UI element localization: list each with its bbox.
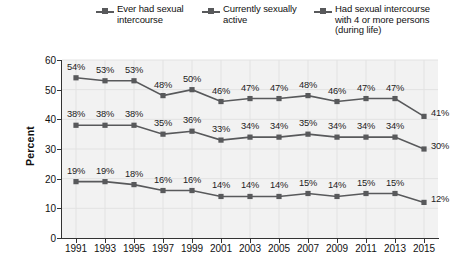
data-label-s2-2007: 15% — [299, 178, 317, 188]
legend-line-marker-icon — [96, 6, 114, 17]
y-tick-label-2: 20 — [45, 173, 56, 184]
data-label-s2-2015: 12% — [431, 194, 449, 204]
data-label-s0-1997: 48% — [154, 80, 172, 90]
y-tick-label-5: 50 — [45, 84, 56, 95]
data-label-s1-2001: 33% — [212, 124, 230, 134]
legend-label-0-line-1: intercourse — [117, 14, 163, 25]
legend-label-2-line-0: Had sexual intercourse — [335, 3, 430, 14]
x-tick-mark-2007 — [308, 238, 309, 243]
x-tick-label-2003: 2003 — [239, 243, 261, 254]
legend-label-2-line-1: with 4 or more persons — [335, 14, 429, 25]
y-tick-label-1: 10 — [45, 203, 56, 214]
data-label-s1-2007: 35% — [299, 118, 317, 128]
y-tick-mark-0 — [57, 238, 62, 239]
data-label-s2-2013: 15% — [386, 178, 404, 188]
legend-entry-ever-had-sexual-intercourse: Ever had sexual intercourse — [96, 4, 202, 25]
data-label-s2-1991: 19% — [67, 166, 85, 176]
data-label-s0-2013: 47% — [386, 83, 404, 93]
x-tick-label-1995: 1995 — [123, 243, 145, 254]
legend-label-0: Ever had sexual intercourse — [117, 4, 184, 25]
x-tick-mark-1999 — [192, 238, 193, 243]
data-label-s2-2009: 14% — [328, 180, 346, 190]
data-label-s1-1997: 35% — [154, 118, 172, 128]
x-tick-label-2011: 2011 — [355, 243, 377, 254]
x-tick-mark-2011 — [366, 238, 367, 243]
x-tick-label-1993: 1993 — [94, 243, 116, 254]
data-label-s2-2001: 14% — [212, 180, 230, 190]
data-label-s1-2011: 34% — [357, 121, 375, 131]
y-axis-title: Percent — [24, 106, 36, 186]
data-label-s1-2015: 30% — [431, 141, 449, 151]
data-label-s1-1993: 38% — [96, 109, 114, 119]
legend-label-2: Had sexual intercourse with 4 or more pe… — [335, 4, 430, 36]
y-tick-label-6: 60 — [45, 55, 56, 66]
data-label-s0-2001: 46% — [212, 86, 230, 96]
data-label-s2-1995: 18% — [125, 169, 143, 179]
y-tick-label-4: 40 — [45, 114, 56, 125]
data-label-s0-1991: 54% — [67, 62, 85, 72]
legend-entry-currently-sexually-active: Currently sexually active — [202, 4, 314, 25]
x-tick-mark-2015 — [424, 238, 425, 243]
data-label-s0-2007: 48% — [299, 80, 317, 90]
x-tick-mark-2013 — [395, 238, 396, 243]
x-tick-mark-2009 — [337, 238, 338, 243]
legend-label-0-line-0: Ever had sexual — [117, 3, 184, 14]
data-label-s1-1999: 36% — [183, 115, 201, 125]
x-tick-mark-1995 — [134, 238, 135, 243]
x-tick-mark-2003 — [250, 238, 251, 243]
x-tick-label-2001: 2001 — [210, 243, 232, 254]
data-label-s2-1993: 19% — [96, 166, 114, 176]
data-label-s0-2005: 47% — [270, 83, 288, 93]
data-label-s0-1995: 53% — [125, 65, 143, 75]
x-tick-mark-1997 — [163, 238, 164, 243]
x-tick-mark-2001 — [221, 238, 222, 243]
x-tick-label-1997: 1997 — [152, 243, 174, 254]
plot-area: 0102030405060 19911993199519971999200120… — [62, 60, 438, 238]
data-label-s1-1995: 38% — [125, 109, 143, 119]
data-label-s1-2009: 34% — [328, 121, 346, 131]
legend-label-1-line-0: Currently sexually — [223, 3, 297, 14]
x-tick-label-2013: 2013 — [384, 243, 406, 254]
legend-line-marker-icon — [314, 6, 332, 17]
data-label-s2-1999: 16% — [183, 175, 201, 185]
y-tick-label-0: 0 — [50, 233, 56, 244]
x-tick-label-2007: 2007 — [297, 243, 319, 254]
data-label-s1-2005: 34% — [270, 121, 288, 131]
data-label-s0-2011: 47% — [357, 83, 375, 93]
data-label-s0-1999: 50% — [183, 74, 201, 84]
x-tick-label-2015: 2015 — [413, 243, 435, 254]
data-label-s2-2005: 14% — [270, 180, 288, 190]
data-label-s0-2015: 41% — [431, 108, 449, 118]
data-label-s0-2003: 47% — [241, 83, 259, 93]
data-label-s0-1993: 53% — [96, 65, 114, 75]
x-tick-label-2005: 2005 — [268, 243, 290, 254]
legend-label-2-line-2: (during life) — [335, 24, 381, 35]
x-tick-label-1999: 1999 — [181, 243, 203, 254]
chart-legend: Ever had sexual intercourse Currently se… — [96, 4, 448, 36]
data-label-s2-2011: 15% — [357, 178, 375, 188]
x-tick-mark-2005 — [279, 238, 280, 243]
data-label-s0-2009: 46% — [328, 86, 346, 96]
x-tick-mark-1991 — [76, 238, 77, 243]
legend-entry-four-or-more-persons: Had sexual intercourse with 4 or more pe… — [314, 4, 448, 36]
data-label-s2-2003: 14% — [241, 180, 259, 190]
data-label-s1-1991: 38% — [67, 109, 85, 119]
data-label-s1-2003: 34% — [241, 121, 259, 131]
data-label-s1-2013: 34% — [386, 121, 404, 131]
x-tick-label-1991: 1991 — [65, 243, 87, 254]
x-tick-label-2009: 2009 — [326, 243, 348, 254]
legend-label-1: Currently sexually active — [223, 4, 297, 25]
legend-label-1-line-1: active — [223, 14, 247, 25]
x-tick-mark-1993 — [105, 238, 106, 243]
data-label-s2-1997: 16% — [154, 175, 172, 185]
legend-line-marker-icon — [202, 6, 220, 17]
y-tick-label-3: 30 — [45, 144, 56, 155]
